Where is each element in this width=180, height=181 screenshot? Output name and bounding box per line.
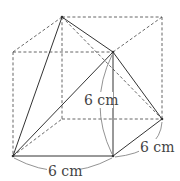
- cube-depth-bottom-left: [13, 119, 62, 156]
- cube-pyramid-diagram: 6 cm 6 cm 6 cm: [0, 0, 180, 181]
- vertex-right: [161, 118, 164, 121]
- pyramid-edge-right-slope: [113, 52, 162, 119]
- pyramid-solid-edges: [13, 17, 162, 156]
- vertex-apex-front: [112, 51, 115, 54]
- vertex-bottom-left: [12, 155, 15, 158]
- cube-depth-top-right: [113, 17, 162, 52]
- cube-depth-top-left: [13, 17, 62, 52]
- label-vertical: 6 cm: [84, 92, 118, 108]
- cube-dashed-edges: [13, 17, 162, 156]
- dimension-labels: 6 cm 6 cm 6 cm: [47, 92, 174, 179]
- vertex-bottom-mid: [112, 155, 115, 158]
- label-bottom: 6 cm: [48, 163, 82, 179]
- label-right: 6 cm: [140, 139, 174, 155]
- vertex-apex-back: [61, 16, 64, 19]
- pyramid-edge-top: [62, 17, 113, 52]
- pyramid-edge-left: [13, 17, 62, 156]
